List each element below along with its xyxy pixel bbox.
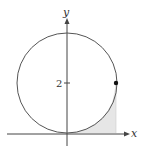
y-tick-label-2: 2 [56, 78, 62, 89]
circle-diagram: x y 2 [0, 0, 144, 149]
shaded-region-fill [67, 83, 116, 133]
x-axis-label: x [131, 127, 138, 140]
y-axis-label: y [62, 6, 70, 19]
marked-point [114, 81, 118, 85]
x-axis-arrow-icon [124, 132, 130, 137]
